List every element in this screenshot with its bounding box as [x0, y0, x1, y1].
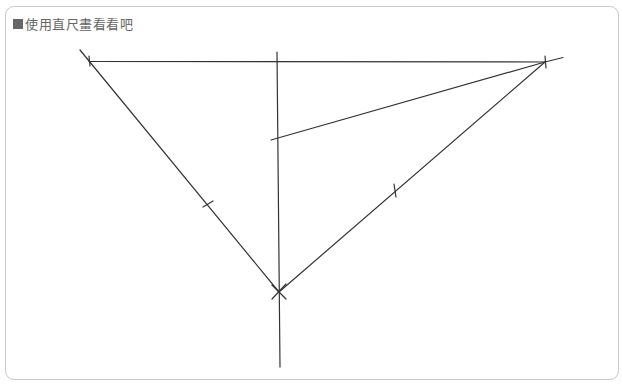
- right-side-line: [279, 62, 545, 292]
- top-side-extension: [545, 58, 563, 63]
- geometry-drawing: [0, 0, 622, 387]
- top-left-vertex-mark: [89, 56, 90, 66]
- left-side-line: [80, 50, 279, 292]
- slanted-line: [271, 62, 545, 140]
- vertical-line: [277, 52, 280, 367]
- top-side-line: [89, 62, 545, 63]
- top-right-vertex-mark: [545, 56, 546, 68]
